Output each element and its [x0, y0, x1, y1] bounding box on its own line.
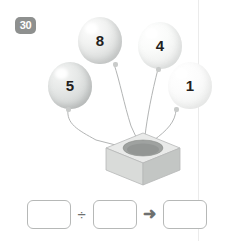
quotient-input[interactable] [163, 200, 207, 229]
balloon-scene: 8 4 5 1 [0, 0, 233, 190]
balloon-number: 5 [48, 77, 92, 94]
balloon-knot-1 [174, 107, 179, 112]
balloon-1: 1 [168, 62, 212, 109]
divisor-input[interactable] [93, 200, 137, 229]
dividend-input[interactable] [27, 200, 71, 229]
box-shape [106, 133, 180, 185]
balloon-number: 1 [168, 77, 212, 94]
balloon-number: 8 [78, 32, 122, 49]
balloon-knot-4 [156, 67, 161, 72]
division-operator: ÷ [71, 207, 93, 222]
balloon-5: 5 [48, 62, 92, 109]
balloon-knot-8 [113, 62, 118, 67]
balloon-4: 4 [138, 22, 182, 69]
box-opening-shadow [127, 144, 159, 156]
worksheet-page: 30 [0, 0, 233, 241]
arrow-right-icon: ➜ [137, 206, 163, 222]
balloon-knot-5 [66, 107, 71, 112]
balloon-8: 8 [78, 17, 122, 64]
balloon-number: 4 [138, 37, 182, 54]
equation-row: ÷ ➜ [0, 194, 233, 234]
